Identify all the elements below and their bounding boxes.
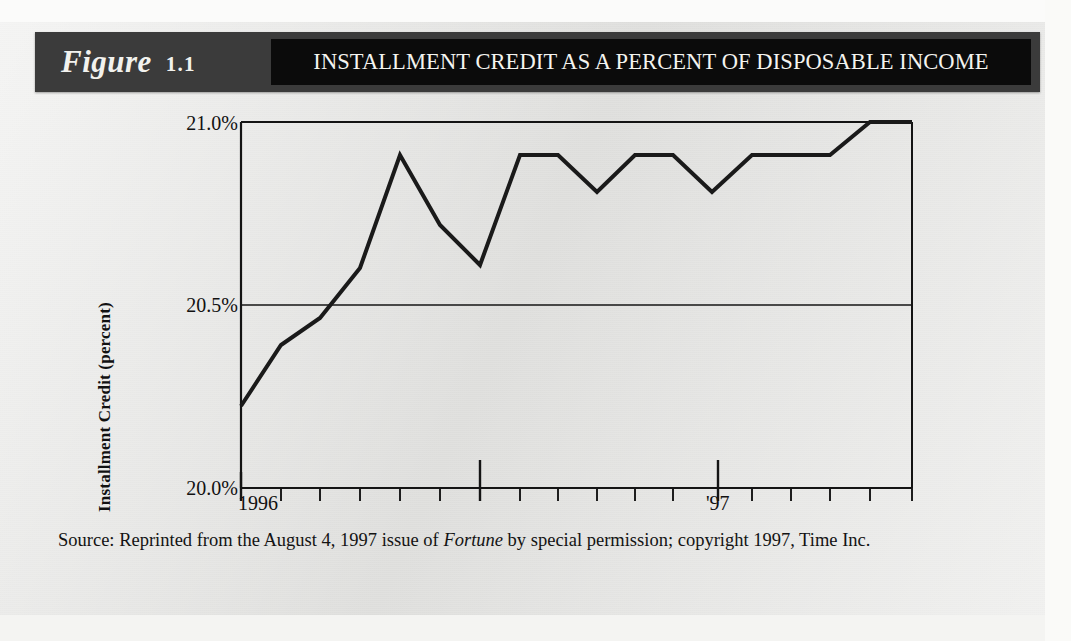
- figure-label-box: Figure 1.1: [35, 32, 271, 92]
- chart-plot-area: Installment Credit (percent) 21.0% 20.5%…: [0, 92, 1071, 522]
- data-series-line: [241, 122, 912, 406]
- figure-title-band: INSTALLMENT CREDIT AS A PERCENT OF DISPO…: [271, 39, 1031, 85]
- figure-header-band: Figure 1.1 INSTALLMENT CREDIT AS A PERCE…: [35, 32, 1040, 92]
- chart-canvas: [0, 92, 1071, 522]
- source-note: Source: Reprinted from the August 4, 199…: [58, 528, 958, 553]
- source-publication: Fortune: [443, 530, 503, 550]
- page-title: INSTALLMENT CREDIT AS A PERCENT OF DISPO…: [313, 49, 988, 75]
- chart-frame: [241, 122, 912, 488]
- figure-number: 1.1: [166, 52, 196, 77]
- page-edge-bottom: [0, 615, 1071, 641]
- x-axis-ticks: [241, 460, 912, 501]
- figure-word: Figure: [61, 44, 152, 80]
- source-prefix: Source: Reprinted from the August 4, 199…: [58, 530, 443, 550]
- figure-page: Figure 1.1 INSTALLMENT CREDIT AS A PERCE…: [0, 0, 1071, 641]
- page-edge-top: [0, 0, 1071, 22]
- source-suffix: by special permission; copyright 1997, T…: [503, 530, 870, 550]
